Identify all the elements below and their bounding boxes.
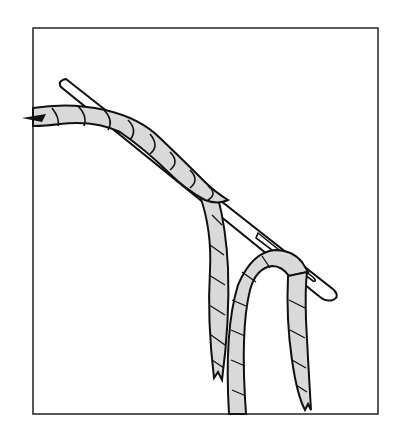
frame-border	[33, 28, 378, 414]
illustration: Line illustration of a twisted rope bein…	[0, 0, 400, 428]
